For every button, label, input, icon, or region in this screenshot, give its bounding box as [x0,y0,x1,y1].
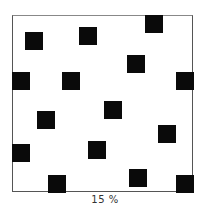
black-square [48,175,66,193]
black-square [127,55,145,73]
black-square [158,125,176,143]
black-square [176,175,194,193]
black-square [12,72,30,90]
black-square [79,27,97,45]
black-square [62,72,80,90]
black-square [145,15,163,33]
black-square [176,72,194,90]
black-square [104,101,122,119]
black-square [88,141,106,159]
caption-label: 15 % [80,194,130,205]
black-square [37,111,55,129]
black-square [12,144,30,162]
black-square [129,169,147,187]
black-square [25,32,43,50]
